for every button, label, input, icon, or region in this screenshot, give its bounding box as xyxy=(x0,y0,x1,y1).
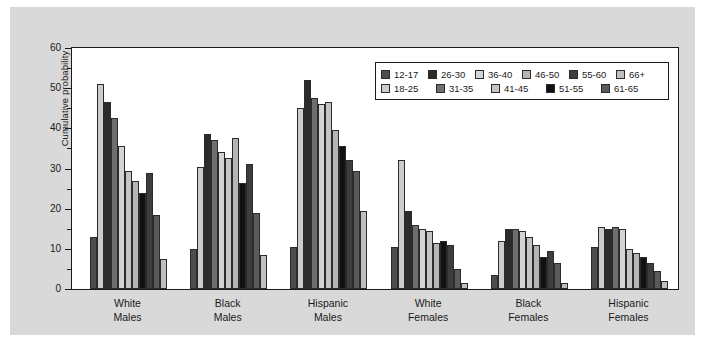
bar xyxy=(204,134,211,289)
bar xyxy=(153,215,160,289)
bar xyxy=(505,229,512,289)
legend-item: 61-65 xyxy=(601,83,656,94)
bar-group xyxy=(290,48,367,289)
bar xyxy=(526,237,533,289)
bar xyxy=(239,183,246,289)
legend-swatch-icon xyxy=(436,84,445,93)
legend-label: 36-40 xyxy=(488,69,512,80)
bar xyxy=(325,102,332,289)
bar xyxy=(346,160,353,289)
bar xyxy=(647,263,654,289)
bar xyxy=(304,80,311,289)
legend-item: 41-45 xyxy=(491,83,546,94)
bar xyxy=(419,229,426,289)
x-axis-group-label: Black Females xyxy=(483,297,573,324)
legend-swatch-icon xyxy=(601,84,610,93)
legend-item: 51-55 xyxy=(546,83,601,94)
bar-group xyxy=(190,48,267,289)
bar xyxy=(633,253,640,289)
legend-swatch-icon xyxy=(381,84,390,93)
bar xyxy=(454,269,461,289)
legend-swatch-icon xyxy=(475,70,484,79)
bar xyxy=(260,255,267,289)
y-tick-label: 20 xyxy=(35,204,61,214)
bar xyxy=(146,173,153,289)
x-axis-group-label: White Males xyxy=(83,297,173,324)
legend-swatch-icon xyxy=(546,84,555,93)
bar xyxy=(104,102,111,289)
bar xyxy=(160,259,167,289)
bar xyxy=(554,263,561,289)
bar xyxy=(519,231,526,289)
bar xyxy=(605,229,612,289)
bar xyxy=(591,247,598,289)
bar xyxy=(461,283,468,289)
x-axis-group-label: White Females xyxy=(383,297,473,324)
y-tick-label: 60 xyxy=(35,43,61,53)
legend-item: 55-60 xyxy=(569,69,616,80)
legend-label: 18-25 xyxy=(394,83,418,94)
y-tick-label: 0 xyxy=(35,284,61,294)
bar xyxy=(253,213,260,289)
bar xyxy=(132,181,139,289)
legend-item: 31-35 xyxy=(436,83,491,94)
bar xyxy=(426,231,433,289)
legend-label: 51-55 xyxy=(559,83,583,94)
bar xyxy=(111,118,118,289)
legend-swatch-icon xyxy=(522,70,531,79)
y-tick-label: 30 xyxy=(35,164,61,174)
legend-swatch-icon xyxy=(616,70,625,79)
bar xyxy=(626,249,633,289)
bar xyxy=(412,225,419,289)
bar xyxy=(433,243,440,289)
legend-label: 31-35 xyxy=(449,83,473,94)
legend-label: 55-60 xyxy=(582,69,606,80)
bar xyxy=(498,241,505,289)
bar xyxy=(612,227,619,289)
bar-group xyxy=(90,48,167,289)
legend-swatch-icon xyxy=(491,84,500,93)
bar xyxy=(225,158,232,289)
bar xyxy=(290,247,297,289)
legend-item: 66+ xyxy=(616,69,663,80)
legend-swatch-icon xyxy=(569,70,578,79)
legend-item: 26-30 xyxy=(428,69,475,80)
legend-label: 26-30 xyxy=(441,69,465,80)
bar xyxy=(447,245,454,289)
chart-legend: 12-1726-3036-4046-5055-6066+ 18-2531-354… xyxy=(375,62,669,100)
bar xyxy=(353,171,360,289)
bar xyxy=(311,98,318,289)
bar xyxy=(440,241,447,289)
bar xyxy=(332,130,339,289)
bar xyxy=(139,193,146,289)
bar xyxy=(297,108,304,289)
legend-label: 61-65 xyxy=(614,83,638,94)
bar xyxy=(491,275,498,289)
bar xyxy=(640,257,647,289)
legend-item: 46-50 xyxy=(522,69,569,80)
bar xyxy=(246,164,253,289)
bar xyxy=(197,167,204,290)
bar xyxy=(654,271,661,289)
bar xyxy=(232,138,239,289)
bar xyxy=(190,249,197,289)
bar xyxy=(97,84,104,289)
x-axis-group-label: Hispanic Females xyxy=(584,297,674,324)
legend-item: 18-25 xyxy=(381,83,436,94)
legend-row-1: 12-1726-3036-4046-5055-6066+ xyxy=(381,67,663,81)
bar xyxy=(405,211,412,289)
bar xyxy=(512,229,519,289)
bar xyxy=(619,229,626,289)
legend-label: 12-17 xyxy=(394,69,418,80)
x-axis-group-label: Hispanic Males xyxy=(283,297,373,324)
bar xyxy=(360,211,367,289)
bar xyxy=(561,283,568,289)
bar xyxy=(540,257,547,289)
bar xyxy=(339,146,346,289)
legend-label: 66+ xyxy=(629,69,645,80)
bar xyxy=(118,146,125,289)
bar xyxy=(318,104,325,289)
bar xyxy=(661,281,668,289)
legend-row-2: 18-2531-3541-4551-5561-65 xyxy=(381,81,663,95)
x-axis-group-label: Black Males xyxy=(183,297,273,324)
